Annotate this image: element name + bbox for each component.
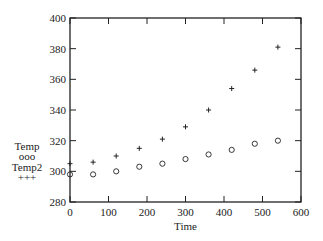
- x-tick-label: 400: [216, 206, 233, 218]
- scatter-chart: 0100200300400500600280300320340360380400…: [0, 0, 323, 241]
- temp2-point: [68, 161, 73, 166]
- x-axis-label: Time: [174, 220, 197, 232]
- temp-point: [183, 156, 188, 161]
- y-tick-label: 320: [50, 135, 67, 147]
- temp2-point: [229, 86, 234, 91]
- x-tick-label: 600: [293, 206, 310, 218]
- y-tick-label: 300: [50, 165, 67, 177]
- temp-point: [206, 152, 211, 157]
- temp2-point: [137, 146, 142, 151]
- temp2-point: [183, 124, 188, 129]
- temp-point: [137, 164, 142, 169]
- x-tick-label: 0: [67, 206, 73, 218]
- y-tick-label: 380: [50, 43, 67, 55]
- temp2-point: [160, 137, 165, 142]
- temp-point: [91, 172, 96, 177]
- y-tick-label: 280: [50, 196, 67, 208]
- x-tick-label: 200: [139, 206, 156, 218]
- temp-point: [160, 161, 165, 166]
- temp2-point: [275, 45, 280, 50]
- y-tick-label: 340: [50, 104, 67, 116]
- x-tick-label: 100: [100, 206, 117, 218]
- temp-point: [252, 141, 257, 146]
- temp2-point: [252, 68, 257, 73]
- plot-frame: [70, 18, 301, 202]
- temp2-point: [206, 108, 211, 113]
- temp-point: [229, 147, 234, 152]
- temp-point: [114, 169, 119, 174]
- x-tick-label: 500: [254, 206, 271, 218]
- temp-point: [275, 138, 280, 143]
- y-tick-label: 400: [50, 12, 67, 24]
- temp2-point: [91, 160, 96, 165]
- temp2-point: [114, 154, 119, 159]
- y-tick-label: 360: [50, 73, 67, 85]
- legend-text: +++: [18, 171, 37, 183]
- x-tick-label: 300: [177, 206, 194, 218]
